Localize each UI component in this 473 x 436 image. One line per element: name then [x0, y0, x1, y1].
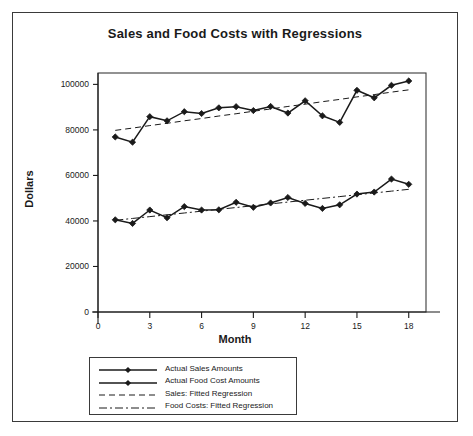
series-line-0 [115, 81, 408, 142]
series-line-1 [115, 179, 408, 223]
data-point-marker [112, 134, 118, 140]
data-point-marker [319, 205, 325, 211]
legend-item: Food Costs: Fitted Regression [90, 400, 296, 413]
data-point-marker [302, 200, 308, 206]
x-axis-title: Month [13, 333, 457, 345]
data-point-marker [198, 207, 204, 213]
legend-key-line-marker [97, 362, 159, 374]
y-axis-tick-label: 40000 [65, 216, 89, 226]
legend-label: Food Costs: Fitted Regression [165, 401, 273, 410]
legend-item: Actual Sales Amounts [90, 362, 296, 375]
x-axis-tick-label: 3 [147, 321, 152, 331]
data-point-marker [337, 119, 343, 125]
chart-legend: Actual Sales AmountsActual Food Cost Amo… [89, 357, 297, 415]
x-axis-tick-label: 12 [300, 321, 310, 331]
legend-label: Actual Food Cost Amounts [165, 376, 260, 385]
x-axis-tick-label: 15 [352, 321, 362, 331]
data-point-marker [198, 110, 204, 116]
data-point-marker [285, 194, 291, 200]
legend-label: Actual Sales Amounts [165, 364, 243, 373]
data-point-marker [250, 107, 256, 113]
legend-item: Sales: Fitted Regression [90, 387, 296, 400]
y-axis-title: Dollars [23, 139, 35, 239]
data-point-marker [250, 204, 256, 210]
data-point-marker [406, 78, 412, 84]
data-point-marker [406, 181, 412, 187]
legend-item: Actual Food Cost Amounts [90, 375, 296, 388]
legend-label: Sales: Fitted Regression [165, 389, 252, 398]
data-point-marker [216, 207, 222, 213]
figure-frame: Sales and Food Costs with Regressions 02… [12, 12, 458, 422]
series-line-2 [115, 90, 408, 131]
data-point-marker [112, 217, 118, 223]
y-axis-tick-label: 100000 [61, 79, 90, 89]
y-axis-tick-label: 80000 [65, 125, 89, 135]
data-point-marker [354, 87, 360, 93]
x-axis-tick-label: 9 [251, 321, 256, 331]
data-point-marker [233, 104, 239, 110]
legend-key-dash-dot-line [97, 400, 159, 412]
data-point-marker [233, 199, 239, 205]
y-axis-tick-label: 20000 [65, 261, 89, 271]
x-axis-tick-label: 18 [404, 321, 414, 331]
y-axis-tick-label: 60000 [65, 170, 89, 180]
data-point-marker [181, 109, 187, 115]
data-point-marker [268, 103, 274, 109]
data-point-marker [216, 105, 222, 111]
x-axis-tick-label: 0 [96, 321, 101, 331]
x-axis-tick-label: 6 [199, 321, 204, 331]
y-axis-tick-label: 0 [84, 307, 89, 317]
legend-key-line-marker [97, 375, 159, 387]
data-point-marker [268, 200, 274, 206]
legend-key-dashed-line [97, 387, 159, 399]
